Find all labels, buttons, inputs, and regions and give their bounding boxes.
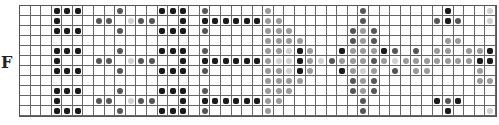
grid-cell [31, 46, 42, 56]
dot-marker [265, 108, 271, 114]
grid-cell [454, 6, 465, 16]
grid-cell [253, 76, 264, 86]
grid-cell [306, 16, 317, 26]
grid-cell [284, 56, 295, 66]
dot-marker [106, 58, 112, 64]
grid-cell [485, 6, 496, 16]
grid-cell [380, 106, 391, 116]
grid-cell [105, 106, 116, 116]
grid-cell [422, 46, 433, 56]
grid-cell [433, 6, 444, 16]
grid-cell [485, 86, 496, 96]
grid-cell [369, 86, 380, 96]
grid-cell [443, 36, 454, 46]
dot-marker [170, 68, 176, 74]
grid-cell [105, 36, 116, 46]
grid-cell [454, 56, 465, 66]
grid-cell [62, 16, 73, 26]
grid-cell [263, 66, 274, 76]
dot-marker [329, 58, 335, 64]
grid-cell [158, 66, 169, 76]
grid-cell [274, 86, 285, 96]
grid-cell [136, 86, 147, 96]
grid-cell [147, 96, 158, 106]
dot-marker [276, 68, 282, 74]
grid-cell [327, 66, 338, 76]
dot-marker [75, 28, 81, 34]
grid-cell [136, 106, 147, 116]
grid-cell [62, 26, 73, 36]
grid-cell [242, 16, 253, 26]
dot-marker [276, 88, 282, 94]
dot-marker [75, 48, 81, 54]
dot-marker [54, 108, 60, 114]
grid-cell [369, 36, 380, 46]
grid-cell [20, 86, 31, 96]
grid-cell [380, 26, 391, 36]
dot-marker [64, 8, 70, 14]
grid-cell [369, 26, 380, 36]
grid-cell [210, 6, 221, 16]
grid-cell [41, 76, 52, 86]
grid-cell [337, 46, 348, 56]
grid-cell [284, 76, 295, 86]
dot-marker [223, 18, 229, 24]
grid-cell [31, 36, 42, 46]
grid-cell [390, 16, 401, 26]
grid-cell [433, 86, 444, 96]
grid-cell [210, 76, 221, 86]
grid-cell [306, 96, 317, 106]
grid-cell [358, 66, 369, 76]
dot-marker [106, 98, 112, 104]
grid-cell [401, 56, 412, 66]
dot-marker [265, 18, 271, 24]
dot-marker [360, 98, 366, 104]
dot-marker [212, 18, 218, 24]
grid-cell [274, 36, 285, 46]
dot-marker [159, 48, 165, 54]
dot-marker [297, 68, 303, 74]
dot-marker [265, 88, 271, 94]
dot-marker [223, 98, 229, 104]
grid-cell [168, 86, 179, 96]
dot-marker [54, 18, 60, 24]
grid-cell [62, 106, 73, 116]
grid-cell [179, 46, 190, 56]
grid-cell [369, 106, 380, 116]
grid-cell [348, 36, 359, 46]
grid-cell [242, 36, 253, 46]
grid-cell [20, 46, 31, 56]
grid-cell [358, 26, 369, 36]
grid-cell [73, 36, 84, 46]
dot-marker [265, 68, 271, 74]
dot-marker [286, 58, 292, 64]
grid-cell [316, 96, 327, 106]
grid-cell [242, 66, 253, 76]
dot-marker [202, 58, 208, 64]
grid-cell [179, 16, 190, 26]
dot-marker [445, 108, 451, 114]
grid-cell [454, 86, 465, 96]
grid-cell [83, 66, 94, 76]
grid-cell [443, 96, 454, 106]
dot-marker [350, 68, 356, 74]
grid-cell [380, 66, 391, 76]
grid-cell [369, 16, 380, 26]
grid-cell [422, 66, 433, 76]
grid-cell [485, 26, 496, 36]
grid-cell [433, 36, 444, 46]
dot-marker [117, 28, 123, 34]
grid-cell [390, 36, 401, 46]
grid-cell [221, 26, 232, 36]
dot-marker [233, 18, 239, 24]
grid-cell [126, 56, 137, 66]
dot-marker [360, 58, 366, 64]
grid-cell [433, 96, 444, 106]
grid-cell [31, 6, 42, 16]
grid-cell [20, 76, 31, 86]
grid-cell [158, 56, 169, 66]
grid-cell [200, 36, 211, 46]
grid-cell [115, 56, 126, 66]
grid-cell [433, 66, 444, 76]
dot-marker [96, 98, 102, 104]
